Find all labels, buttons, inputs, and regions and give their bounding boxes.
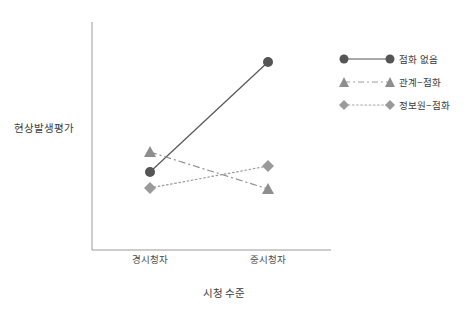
legend-marker-diamond-right — [385, 100, 395, 110]
legend-label-1: 점화 없음 — [399, 54, 438, 65]
series-2-line — [150, 152, 268, 189]
legend-entry-1: 점화 없음 — [340, 54, 438, 65]
chart-canvas: 경시청자 중시청자 현상발생평가 시청 수준 점화 없음 관계−점화 — [0, 0, 472, 317]
series-1-point-2 — [263, 57, 273, 67]
legend-entry-2: 관계−점화 — [339, 77, 441, 88]
legend-label-3: 정보원−점화 — [399, 100, 450, 111]
series-1-group — [145, 57, 273, 177]
x-tick-label-2: 중시청자 — [250, 254, 286, 265]
series-1-line — [150, 62, 268, 172]
legend-marker-diamond-left — [339, 100, 349, 110]
series-1-point-1 — [145, 167, 155, 177]
interaction-plot-figure: 경시청자 중시청자 현상발생평가 시청 수준 점화 없음 관계−점화 — [0, 0, 472, 317]
series-3-line — [150, 166, 268, 188]
x-axis-title: 시청 수준 — [203, 287, 246, 299]
series-2-group — [144, 146, 274, 194]
series-3-group — [144, 160, 274, 194]
legend-label-2: 관계−점화 — [399, 77, 441, 88]
series-3-point-2 — [262, 160, 274, 172]
legend-marker-circle-right — [386, 55, 395, 64]
series-2-point-2 — [262, 183, 274, 194]
x-tick-label-1: 경시청자 — [132, 254, 168, 265]
legend-marker-circle-left — [340, 55, 349, 64]
legend: 점화 없음 관계−점화 정보원−점화 — [339, 54, 450, 111]
legend-entry-3: 정보원−점화 — [339, 100, 450, 111]
y-axis-title: 현상발생평가 — [14, 122, 74, 134]
series-3-point-1 — [144, 182, 156, 194]
series-2-point-1 — [144, 146, 156, 157]
